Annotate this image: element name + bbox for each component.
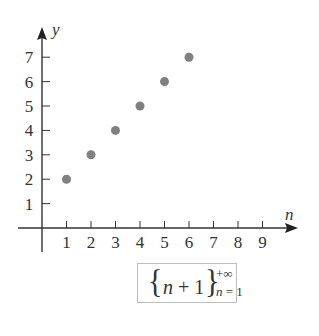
- sequence-formula-box: { n + 1 } +∞ n = 1: [137, 263, 237, 303]
- y-tick-label: 7: [25, 48, 34, 67]
- y-tick-label: 4: [25, 121, 34, 140]
- axes: y n: [18, 20, 298, 252]
- x-tick-label: 8: [234, 233, 243, 252]
- x-tick-label: 1: [62, 233, 71, 252]
- data-point: [136, 102, 145, 111]
- y-tick-label: 5: [25, 97, 34, 116]
- y-tick-label: 2: [25, 170, 34, 189]
- open-brace: {: [148, 262, 162, 299]
- data-point: [111, 126, 120, 135]
- data-point: [185, 53, 194, 62]
- y-ticks: 1234567: [25, 48, 50, 213]
- lower-limit: n = 1: [216, 284, 243, 300]
- data-point: [160, 77, 169, 86]
- y-axis-label: y: [50, 20, 60, 39]
- y-tick-label: 6: [25, 73, 34, 92]
- formula-expression: n + 1: [163, 276, 204, 299]
- y-tick-label: 3: [25, 146, 34, 165]
- data-point: [87, 150, 96, 159]
- upper-limit: +∞: [216, 266, 233, 282]
- x-axis-label: n: [285, 205, 294, 224]
- data-points: [62, 53, 194, 184]
- lower-limit-value: = 1: [223, 284, 243, 299]
- x-tick-label: 2: [87, 233, 96, 252]
- data-point: [62, 175, 71, 184]
- x-ticks: 123456789: [62, 221, 267, 252]
- formula-variable: n: [163, 276, 173, 298]
- x-tick-label: 4: [136, 233, 145, 252]
- x-tick-label: 9: [258, 233, 267, 252]
- x-tick-label: 3: [111, 233, 120, 252]
- x-tick-label: 5: [160, 233, 169, 252]
- y-tick-label: 1: [25, 195, 34, 214]
- x-tick-label: 6: [185, 233, 194, 252]
- x-tick-label: 7: [209, 233, 218, 252]
- formula-operator: + 1: [173, 276, 204, 298]
